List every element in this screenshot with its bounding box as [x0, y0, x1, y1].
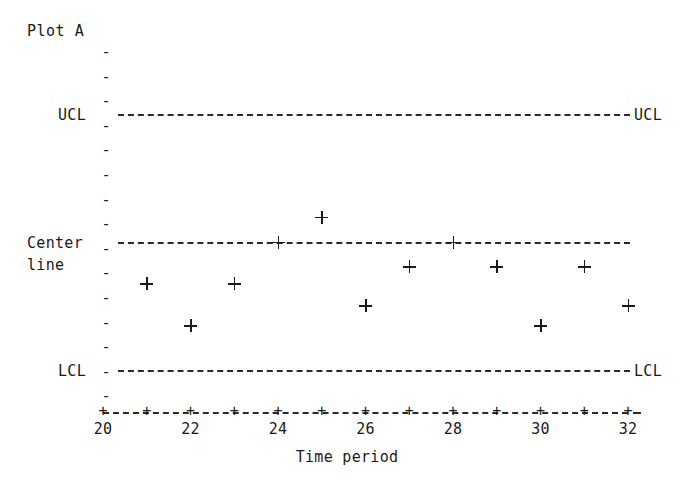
y-axis-tick: - [100, 291, 112, 306]
x-axis-tick-label: 26 [346, 420, 386, 438]
lcl-label-left: LCL [0, 362, 86, 380]
x-axis-tick: + [227, 403, 241, 419]
center-line-label-line1: Center [0, 234, 86, 252]
ucl-label-left: UCL [0, 106, 86, 124]
data-point [578, 260, 591, 273]
data-point [534, 319, 547, 332]
y-axis-tick: - [100, 119, 112, 134]
data-point [359, 299, 372, 312]
y-axis-tick: - [100, 217, 112, 232]
data-point [403, 260, 416, 273]
data-point [315, 211, 328, 224]
x-axis-tick: + [271, 403, 285, 419]
x-axis-tick-label: 24 [258, 420, 298, 438]
x-axis: +++++++++++++ [0, 403, 694, 419]
x-axis-tick: + [359, 403, 373, 419]
y-axis-tick: - [100, 193, 112, 208]
data-point [140, 277, 153, 290]
data-point [184, 319, 197, 332]
x-axis-tick-label: 22 [171, 420, 211, 438]
x-axis-tick-label: 30 [521, 420, 561, 438]
y-axis-tick: - [100, 365, 112, 380]
x-axis-tick: + [490, 403, 504, 419]
data-point [272, 236, 285, 249]
x-axis-tick: + [96, 403, 110, 419]
control-chart-figure: Plot A UCL Center line LCL UCL LCL -----… [0, 0, 694, 481]
x-axis-tick: + [534, 403, 548, 419]
lcl-label-right: LCL [634, 362, 662, 380]
x-axis-tick-label: 28 [433, 420, 473, 438]
y-axis-tick: - [100, 340, 112, 355]
x-axis-tick: + [577, 403, 591, 419]
data-point [447, 236, 460, 249]
center-reference-line [118, 242, 630, 244]
data-point [622, 299, 635, 312]
data-point [490, 260, 503, 273]
x-axis-tick-label: 20 [83, 420, 123, 438]
y-axis-tick: - [100, 70, 112, 85]
x-axis-tick: + [621, 403, 635, 419]
y-axis-tick: - [100, 266, 112, 281]
data-point [228, 277, 241, 290]
y-axis-tick: - [100, 168, 112, 183]
x-axis-title: Time period [0, 448, 694, 466]
x-axis-line-tail [633, 412, 641, 414]
y-axis-tick: - [100, 242, 112, 257]
lcl-reference-line [118, 370, 630, 372]
x-axis-tick: + [315, 403, 329, 419]
page-title: Plot A [27, 22, 84, 40]
center-line-label-line2: line [0, 256, 86, 274]
x-axis-tick: + [140, 403, 154, 419]
y-axis-tick: - [100, 143, 112, 158]
x-axis-tick: + [402, 403, 416, 419]
y-axis-tick: - [100, 94, 112, 109]
x-axis-tick: + [446, 403, 460, 419]
y-axis-tick: - [100, 45, 112, 60]
y-axis-tick: - [100, 316, 112, 331]
ucl-label-right: UCL [634, 106, 662, 124]
x-axis-tick: + [184, 403, 198, 419]
x-axis-tick-label: 32 [608, 420, 648, 438]
ucl-reference-line [118, 114, 630, 116]
